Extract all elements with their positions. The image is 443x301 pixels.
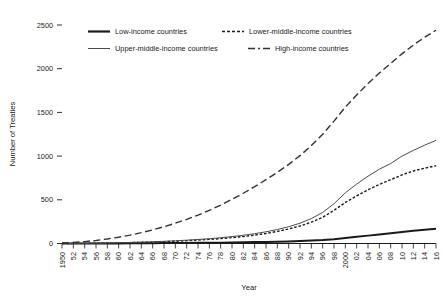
- x-tick-label: 56: [92, 252, 101, 260]
- x-tick-label: 66: [148, 252, 157, 260]
- x-tick-label: 90: [284, 252, 293, 260]
- chart-container: Low-income countries Lower-middle-income…: [0, 0, 443, 301]
- x-tick-label: 84: [250, 252, 259, 260]
- y-tick-label: 2000: [37, 64, 53, 73]
- series-line: [62, 166, 436, 244]
- y-axis-title: Number of Treaties: [8, 102, 17, 167]
- y-tick-label: 2500: [37, 21, 53, 30]
- x-tick-label: 16: [432, 252, 441, 260]
- x-tick-label: 2000: [341, 252, 350, 268]
- legend-label-high-income: High-income countries: [275, 44, 349, 53]
- x-tick-label: 12: [409, 252, 418, 260]
- x-axis-title: Year: [241, 283, 257, 292]
- legend-label-low-income: Low-income countries: [115, 27, 187, 36]
- legend-label-lower-middle-income: Lower-middle-income countries: [249, 27, 352, 36]
- x-tick-label: 78: [216, 252, 225, 260]
- y-tick-label: 1000: [37, 152, 53, 161]
- line-chart: Low-income countries Lower-middle-income…: [0, 0, 443, 301]
- x-tick-label: 76: [205, 252, 214, 260]
- x-tick-label: 04: [364, 252, 373, 260]
- x-tick-label: 72: [182, 252, 191, 260]
- x-tick-label: 82: [239, 252, 248, 260]
- x-tick-label: 54: [80, 252, 89, 260]
- y-tick-label: 0: [49, 239, 53, 248]
- x-tick-label: 58: [103, 252, 112, 260]
- x-tick-label: 98: [330, 252, 339, 260]
- y-tick-label: 500: [41, 195, 53, 204]
- x-tick-label: 14: [420, 252, 429, 260]
- x-tick-label: 96: [318, 252, 327, 260]
- x-tick-label: 02: [352, 252, 361, 260]
- x-tick-label: 74: [194, 252, 203, 260]
- series-line: [62, 30, 436, 243]
- x-tick-label: 68: [160, 252, 169, 260]
- x-tick-label: 94: [307, 252, 316, 260]
- y-tick-label: 1500: [37, 108, 53, 117]
- chart-legend: Low-income countries Lower-middle-income…: [88, 27, 352, 53]
- x-tick-label: 60: [114, 252, 123, 260]
- chart-series-group: [62, 30, 436, 243]
- x-tick-label: 08: [386, 252, 395, 260]
- x-tick-label: 80: [228, 252, 237, 260]
- x-tick-label: 52: [69, 252, 78, 260]
- x-axis: 1950525456586062646668707274767880828486…: [58, 244, 441, 269]
- series-line: [62, 140, 436, 243]
- x-tick-label: 70: [171, 252, 180, 260]
- legend-label-upper-middle-income: Upper-middle-income countries: [115, 44, 218, 53]
- x-tick-label: 06: [375, 252, 384, 260]
- x-tick-label: 92: [296, 252, 305, 260]
- x-tick-label: 86: [262, 252, 271, 260]
- x-tick-label: 1950: [58, 252, 67, 268]
- x-tick-label: 10: [398, 252, 407, 260]
- y-axis: 05001000150020002500: [37, 21, 62, 249]
- x-tick-label: 88: [273, 252, 282, 260]
- x-tick-label: 64: [137, 252, 146, 260]
- x-tick-label: 62: [126, 252, 135, 260]
